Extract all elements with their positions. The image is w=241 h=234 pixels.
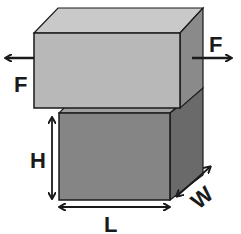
width-label: W: [186, 181, 218, 214]
shear-diagram: F F H L W: [0, 0, 241, 234]
diagram-svg: F F H L W: [0, 0, 241, 234]
bottom-block-front-face: [59, 113, 170, 200]
top-block-front-face: [34, 33, 180, 108]
height-label: H: [30, 148, 46, 173]
force-label-left: F: [14, 72, 27, 97]
force-label-right: F: [209, 32, 222, 57]
top-block: [34, 8, 203, 108]
length-label: L: [104, 212, 117, 234]
top-block-top-face: [34, 8, 203, 33]
